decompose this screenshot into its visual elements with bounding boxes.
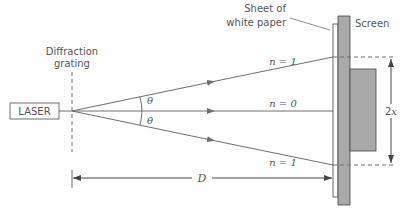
paper-label-line2: white paper <box>226 17 287 28</box>
paper-label-line1: Sheet of <box>244 3 286 14</box>
theta-top-label: θ <box>147 95 153 106</box>
order-label-middle: n = 0 <box>269 98 297 109</box>
separation-label: 2x <box>385 106 397 117</box>
diffraction-grating: Diffraction grating <box>46 46 98 152</box>
laser-label: LASER <box>18 106 50 117</box>
order-label-bottom: n = 1 <box>269 157 297 168</box>
distance-label: D <box>197 172 207 185</box>
grating-label-line2: grating <box>54 58 90 69</box>
screen-label: Screen <box>355 18 389 29</box>
laser-source: LASER <box>10 103 59 119</box>
paper-leader-line <box>290 18 330 30</box>
diffraction-diagram: LASER Diffraction grating θ θ n = 1 n = … <box>0 0 404 214</box>
distance-arrow: D <box>72 170 332 188</box>
separation-arrow: 2x <box>384 59 400 163</box>
grating-label-line1: Diffraction <box>46 46 98 57</box>
diffracted-beams <box>72 57 333 165</box>
screen-block <box>350 69 376 151</box>
theta-bottom-label: θ <box>147 115 153 126</box>
order-label-top: n = 1 <box>269 56 297 67</box>
screen: Screen <box>338 16 389 205</box>
